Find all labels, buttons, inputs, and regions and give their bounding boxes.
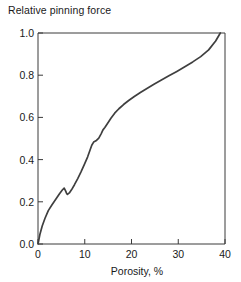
axis-frame <box>38 33 225 244</box>
x-tick-label-0: 0 <box>35 248 41 260</box>
y-tick-label-0.4: 0.4 <box>19 154 34 166</box>
x-tick-label-20: 20 <box>126 248 138 260</box>
plot-area: 1.0 0.8 0.6 0.4 0.2 0.0 0 10 20 30 40 Po… <box>0 0 241 282</box>
y-axis-ticks <box>38 33 43 244</box>
y-axis-tick-labels: 1.0 0.8 0.6 0.4 0.2 0.0 <box>19 27 34 250</box>
y-tick-label-0.6: 0.6 <box>19 111 34 123</box>
y-tick-label-0.0: 0.0 <box>19 238 34 250</box>
x-tick-label-40: 40 <box>219 248 231 260</box>
x-axis-tick-labels: 0 10 20 30 40 <box>35 248 231 260</box>
x-tick-label-10: 10 <box>79 248 91 260</box>
x-axis-label: Porosity, % <box>111 265 163 277</box>
y-tick-label-1.0: 1.0 <box>19 27 34 39</box>
x-axis-ticks <box>38 239 225 244</box>
data-series-relative-pinning-force <box>38 33 220 244</box>
chart-figure: Relative pinning force 1.0 0.8 0.6 0.4 <box>0 0 241 282</box>
y-tick-label-0.2: 0.2 <box>19 196 34 208</box>
y-tick-label-0.8: 0.8 <box>19 69 34 81</box>
x-tick-label-30: 30 <box>172 248 184 260</box>
